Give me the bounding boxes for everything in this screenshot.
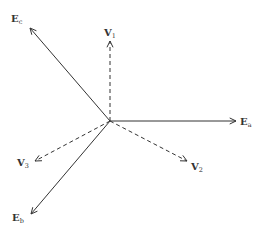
vector-v3 — [35, 121, 110, 161]
label-v3: V3 — [16, 157, 29, 170]
vector-line — [31, 121, 110, 214]
arrowhead-icon — [107, 41, 113, 47]
vector-ec — [30, 28, 110, 121]
vector-eb — [31, 121, 110, 214]
vector-v1 — [107, 41, 113, 121]
vector-line — [30, 28, 110, 121]
vector-ea — [110, 118, 236, 124]
phasor-diagram: EaEcEbV1V2V3 — [0, 0, 264, 233]
label-v2: V2 — [190, 161, 203, 174]
vector-line — [110, 121, 187, 161]
vector-v2 — [110, 121, 187, 161]
labels-group: EaEcEbV1V2V3 — [11, 13, 252, 225]
vectors-group — [30, 28, 236, 214]
label-v1: V1 — [103, 27, 116, 40]
label-ec: Ec — [11, 13, 23, 26]
label-eb: Eb — [12, 212, 24, 225]
label-ea: Ea — [240, 116, 252, 129]
vector-line — [35, 121, 110, 161]
